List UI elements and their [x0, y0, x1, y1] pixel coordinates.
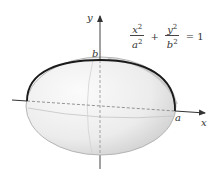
exponent: 2: [138, 38, 142, 46]
ellipsoid-figure: y b a x x2 a2 + y2 b2 = 1: [0, 0, 221, 181]
exponent: 2: [138, 23, 142, 31]
x-axis-label: x: [201, 117, 207, 128]
equals-one: = 1: [186, 31, 204, 42]
b-label: b: [92, 48, 98, 59]
fraction-y: y2 b2: [165, 22, 180, 52]
a-label: a: [175, 112, 181, 123]
ellipse-equation: x2 a2 + y2 b2 = 1: [128, 22, 208, 52]
exponent: 2: [173, 23, 177, 31]
y-axis-label: y: [86, 12, 93, 23]
plus-sign: +: [150, 31, 158, 42]
fraction-x: x2 a2: [130, 22, 144, 52]
x-axis-left: [12, 100, 27, 101]
exponent: 2: [173, 38, 177, 46]
